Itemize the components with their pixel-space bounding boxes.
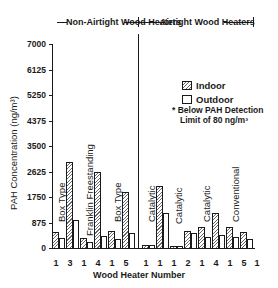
outdoor-swatch-icon: [182, 95, 192, 104]
detection-note-line2: Limit of 80 ng/m³: [172, 115, 263, 125]
y-tick: [49, 44, 52, 45]
y-tick: [49, 70, 52, 71]
heater-type-label: Box Type: [112, 183, 123, 222]
legend-outdoor-label: Outdoor: [196, 94, 233, 105]
bar-indoor: [142, 245, 149, 249]
y-tick-label: 6125: [10, 65, 46, 75]
x-tick-label: 5: [121, 258, 131, 268]
x-tick-label: 1: [79, 258, 89, 268]
bar-indoor: [184, 231, 191, 249]
bar-outdoor: [149, 245, 155, 249]
legend-outdoor: Outdoor: [182, 94, 233, 105]
airtight-header-text: Airtight Wood Heaters: [160, 17, 226, 27]
y-tick-label: 0: [10, 243, 46, 253]
bar-outdoor: [129, 233, 135, 249]
non-airtight-header-text: Non-Airtight Wood Heaters: [66, 17, 126, 27]
bar-indoor: [212, 213, 219, 249]
y-tick: [49, 223, 52, 224]
bar-indoor: [198, 227, 205, 249]
x-tick-label: 1: [107, 258, 117, 268]
x-tick-label: 1: [252, 258, 262, 268]
bar-indoor: [80, 238, 87, 249]
bar-outdoor: [163, 213, 169, 249]
bar-indoor: [66, 162, 73, 249]
y-axis: [52, 44, 53, 249]
heater-type-label: Franklin Freestanding: [84, 144, 95, 236]
detection-note: * Below PAH Detection Limit of 80 ng/m³: [172, 105, 263, 125]
legend-indoor: Indoor: [182, 80, 226, 91]
bar-indoor: [108, 231, 115, 249]
non-airtight-bracket-right: [124, 22, 162, 23]
group-divider-top: [138, 17, 139, 27]
bar-indoor: [170, 246, 177, 249]
airtight-bracket-right: [224, 22, 254, 23]
bar-indoor: [240, 232, 247, 249]
x-tick-label: 3: [65, 258, 75, 268]
bar-outdoor: [247, 239, 253, 249]
airtight-bracket-end: [253, 17, 254, 27]
bar-indoor: [156, 186, 163, 249]
group-divider: [138, 34, 139, 248]
x-tick-label: 5: [239, 258, 249, 268]
y-tick: [49, 146, 52, 147]
y-tick-label: 7000: [10, 39, 46, 49]
bar-outdoor: [219, 235, 225, 249]
bar-outdoor: [233, 237, 239, 249]
y-tick: [49, 121, 52, 122]
airtight-header: Airtight Wood Heaters: [160, 17, 226, 27]
bar-outdoor: [115, 239, 121, 249]
bar-outdoor: [59, 238, 65, 249]
y-axis-title: PAH Concentration (ng/m³): [8, 96, 19, 210]
bar-indoor: [94, 172, 101, 249]
y-tick-label: 875: [10, 218, 46, 228]
heater-type-label: Catalytic: [201, 186, 212, 222]
y-tick: [49, 197, 52, 198]
x-tick-label: 1: [155, 258, 165, 268]
legend-indoor-label: Indoor: [196, 80, 226, 91]
heater-type-label: Catalytic: [173, 188, 184, 224]
bar-indoor: [52, 232, 59, 249]
heater-type-label: Box Type: [56, 183, 67, 222]
x-tick-label: 1: [141, 258, 151, 268]
bar-outdoor: [87, 242, 93, 249]
heater-type-label: Catalytic: [146, 186, 157, 222]
bar-outdoor: [191, 233, 197, 249]
y-tick: [49, 172, 52, 173]
non-airtight-header: Non-Airtight Wood Heaters: [66, 17, 126, 27]
x-tick-label: 1: [197, 258, 207, 268]
x-tick-label: 1: [225, 258, 235, 268]
bar-outdoor: [205, 237, 211, 249]
detection-note-line1: * Below PAH Detection: [172, 105, 263, 115]
x-tick-label: 1: [169, 258, 179, 268]
heater-type-label: Conventional: [230, 167, 241, 222]
x-tick-label: 4: [211, 258, 221, 268]
y-tick: [49, 95, 52, 96]
x-tick-label: 4: [93, 258, 103, 268]
x-tick-label: 1: [51, 258, 61, 268]
bar-outdoor: [73, 220, 79, 249]
x-axis-title: Wood Heater Number: [0, 270, 278, 280]
bar-outdoor: [101, 236, 107, 249]
indoor-swatch-icon: [182, 81, 192, 90]
x-tick-label: 2: [183, 258, 193, 268]
bar-indoor: [122, 192, 129, 249]
bar-indoor: [226, 227, 233, 249]
bar-outdoor: [177, 246, 183, 249]
